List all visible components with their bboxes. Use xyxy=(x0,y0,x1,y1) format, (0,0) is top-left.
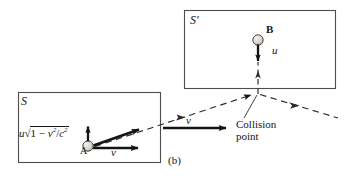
collision-point-caption: Collision point xyxy=(236,119,276,142)
velocity-v-label-A: v xyxy=(111,147,116,159)
collision-caption-line-1: Collision xyxy=(236,119,276,131)
frame-S-prime-label: S′ xyxy=(190,14,199,27)
frame-S-label: S xyxy=(21,95,27,108)
panel-letter-label: (b) xyxy=(168,155,181,167)
collision-leader-line xyxy=(244,95,257,118)
ball-B xyxy=(253,35,263,45)
velocity-expression-label: u√1 − v2/c2 xyxy=(19,127,69,139)
expr-c-exponent: 2 xyxy=(64,126,68,134)
velocity-u-label-B: u xyxy=(272,45,278,57)
relativity-collision-figure: S S′ A B u v v u√1 − v2/c2 Collision poi… xyxy=(0,0,346,182)
ball-A-label: A xyxy=(80,146,87,157)
vector-resultant-at-A xyxy=(94,130,140,146)
collision-caption-line-2: point xyxy=(236,131,276,143)
dashed-trajectory-A xyxy=(95,95,251,147)
velocity-v-label-middle: v xyxy=(186,115,191,127)
expr-one-minus: 1 − xyxy=(31,127,48,139)
expr-radicand: 1 − v2/c2 xyxy=(30,126,69,139)
dashed-trajectory-A-midarrow xyxy=(176,115,185,121)
ball-B-label: B xyxy=(266,24,273,36)
dashed-outgoing-right xyxy=(260,95,338,119)
dashed-incoming-B xyxy=(255,62,261,94)
